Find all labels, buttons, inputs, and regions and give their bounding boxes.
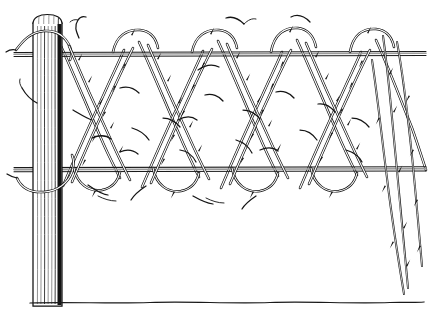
top-wire: [14, 51, 426, 56]
thorns: [78, 26, 421, 267]
woven-canes-back-layer: [60, 40, 426, 188]
post-cap: [33, 15, 62, 25]
illustration-canvas: Thorny canes trained in a serpentine wea…: [0, 0, 430, 318]
trailing-canes: [372, 36, 422, 294]
woven-canes-front-layer: [6, 28, 422, 294]
line-drawing: [0, 0, 430, 318]
support-post: [33, 15, 62, 307]
cane-descending-front: [69, 43, 367, 180]
cane-top-arcs: [113, 28, 394, 52]
ground-line: [30, 302, 424, 303]
